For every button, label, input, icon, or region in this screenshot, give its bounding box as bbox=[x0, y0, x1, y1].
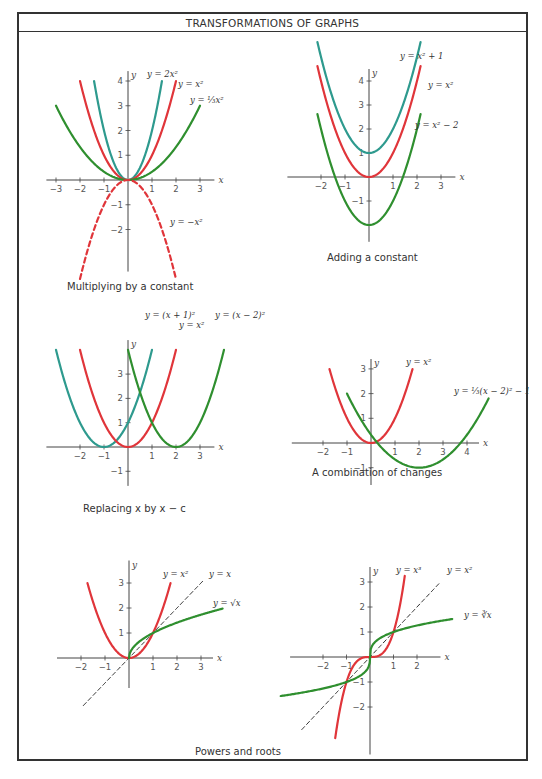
y-tick-label: 3 bbox=[119, 578, 124, 588]
curve-equation-label: y = 2x² bbox=[146, 69, 179, 79]
curve-equation-label: y = −x² bbox=[169, 217, 203, 227]
y-tick-label: 4 bbox=[359, 76, 364, 86]
y-tick-label: 1 bbox=[360, 627, 365, 637]
panel-powers-left: xy−2−1123123y = x²y = xy = √x bbox=[57, 560, 241, 706]
x-tick-label: 2 bbox=[414, 661, 419, 671]
x-tick-label: 1 bbox=[150, 662, 155, 672]
caption-combination: A combination of changes bbox=[312, 467, 442, 478]
x-axis-label: x bbox=[445, 652, 450, 662]
y-tick-label: 3 bbox=[360, 577, 365, 587]
x-tick-label: 3 bbox=[438, 181, 443, 191]
x-tick-label: 1 bbox=[392, 447, 397, 457]
curve-equation-label: y = x² bbox=[178, 320, 205, 330]
y-tick-label: 3 bbox=[118, 369, 123, 379]
caption-multiplying: Multiplying by a constant bbox=[67, 281, 193, 292]
y-tick-label: 2 bbox=[360, 602, 365, 612]
x-tick-label: 2 bbox=[173, 451, 178, 461]
panel-replacing: xy−2−1123−1123y = (x + 1)²y = x²y = (x −… bbox=[46, 310, 265, 486]
y-tick-label: 1 bbox=[118, 150, 123, 160]
y-axis-label: y bbox=[130, 339, 137, 349]
graphs-canvas: xy−3−2−1123−2−11234y = 2x²y = x²y = ⅓x²y… bbox=[0, 0, 542, 779]
caption-replacing: Replacing x by x − c bbox=[83, 503, 186, 514]
curve-equation-label: y = ∛x bbox=[463, 610, 492, 620]
x-tick-label: 3 bbox=[198, 662, 203, 672]
x-tick-label: 2 bbox=[414, 181, 419, 191]
y-axis-label: y bbox=[372, 566, 379, 576]
y-axis-label: y bbox=[130, 70, 137, 80]
y-tick-label: −2 bbox=[110, 225, 123, 235]
x-tick-label: −1 bbox=[98, 451, 111, 461]
x-tick-label: 1 bbox=[149, 184, 154, 194]
y-tick-label: 1 bbox=[118, 418, 123, 428]
y-tick-label: 3 bbox=[361, 364, 366, 374]
x-tick-label: 3 bbox=[197, 184, 202, 194]
x-tick-label: −1 bbox=[99, 662, 112, 672]
curve-equation-label: y = x² bbox=[405, 357, 432, 367]
y-tick-label: 1 bbox=[119, 628, 124, 638]
y-tick-label: 3 bbox=[118, 101, 123, 111]
x-tick-label: 1 bbox=[149, 451, 154, 461]
x-tick-label: −3 bbox=[50, 184, 63, 194]
y-tick-label: −1 bbox=[110, 466, 123, 476]
x-tick-label: −2 bbox=[74, 184, 87, 194]
x-tick-label: −2 bbox=[75, 662, 88, 672]
x-tick-label: 1 bbox=[391, 661, 396, 671]
x-axis-label: x bbox=[218, 175, 223, 185]
x-axis-label: x bbox=[459, 172, 464, 182]
y-tick-label: −2 bbox=[352, 702, 365, 712]
curve bbox=[128, 350, 224, 447]
x-axis-label: x bbox=[218, 442, 223, 452]
x-tick-label: −1 bbox=[341, 447, 354, 457]
curve-equation-label: y = ⅓x² bbox=[189, 95, 224, 105]
y-tick-label: 2 bbox=[119, 603, 124, 613]
x-tick-label: −2 bbox=[317, 447, 330, 457]
y-axis-label: y bbox=[371, 68, 378, 78]
x-tick-label: −2 bbox=[74, 451, 87, 461]
curve-equation-label: y = x² bbox=[162, 569, 189, 579]
panel-multiplying: xy−3−2−1123−2−11234y = 2x²y = x²y = ⅓x²y… bbox=[46, 69, 224, 279]
x-tick-label: −2 bbox=[315, 181, 328, 191]
curve bbox=[56, 350, 152, 447]
x-tick-label: 2 bbox=[174, 662, 179, 672]
curve-equation-label: y = x² + 1 bbox=[399, 51, 443, 61]
y-tick-label: 2 bbox=[118, 393, 123, 403]
curve-equation-label: y = x³ bbox=[395, 565, 422, 575]
y-tick-label: 2 bbox=[118, 126, 123, 136]
curve-equation-label: y = x² bbox=[427, 80, 454, 90]
y-tick-label: 2 bbox=[361, 389, 366, 399]
y-axis-label: y bbox=[373, 358, 380, 368]
panel-combination: xy−2−11234−1123y = x²y = ⅓(x − 2)² − 1 bbox=[292, 357, 530, 485]
caption-adding: Adding a constant bbox=[327, 252, 418, 263]
x-tick-label: 3 bbox=[440, 447, 445, 457]
panel-adding: xy−2−1123−11234y = x² + 1y = x²y = x² − … bbox=[287, 42, 464, 242]
x-tick-label: 4 bbox=[464, 447, 469, 457]
x-tick-label: 2 bbox=[416, 447, 421, 457]
curve bbox=[83, 581, 203, 706]
panel-powers-right: xy−2−112−2−1123y = x³y = x²y = ∛x bbox=[281, 565, 492, 755]
x-tick-label: −1 bbox=[98, 184, 111, 194]
y-tick-label: 2 bbox=[359, 124, 364, 134]
y-tick-label: 3 bbox=[359, 100, 364, 110]
curve-equation-label: y = x² − 2 bbox=[414, 120, 458, 130]
curve-equation-label: y = x² bbox=[177, 79, 204, 89]
y-tick-label: −1 bbox=[351, 196, 364, 206]
curve-equation-label: y = ⅓(x − 2)² − 1 bbox=[453, 386, 530, 396]
y-tick-label: 4 bbox=[118, 76, 123, 86]
x-tick-label: 3 bbox=[197, 451, 202, 461]
y-axis-label: y bbox=[131, 560, 138, 570]
y-tick-label: −1 bbox=[110, 200, 123, 210]
curve-equation-label: y = √x bbox=[212, 598, 241, 608]
x-axis-label: x bbox=[217, 653, 222, 663]
x-tick-label: −2 bbox=[317, 661, 330, 671]
caption-powers-right: Powers and roots bbox=[195, 746, 281, 757]
x-axis-label: x bbox=[483, 438, 488, 448]
x-tick-label: 1 bbox=[390, 181, 395, 191]
x-tick-label: 2 bbox=[173, 184, 178, 194]
curve-equation-label: y = x² bbox=[446, 565, 473, 575]
curve-equation-label: y = (x − 2)² bbox=[214, 310, 266, 320]
curve-equation-label: y = x bbox=[208, 569, 231, 579]
curve-equation-label: y = (x + 1)² bbox=[144, 310, 196, 320]
